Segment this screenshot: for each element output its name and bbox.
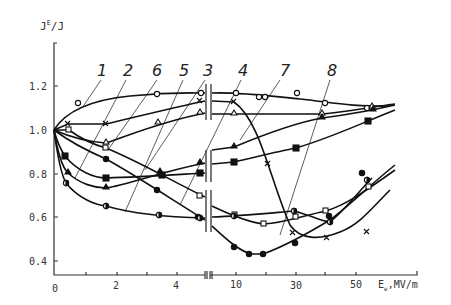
curve-label-1: 1 bbox=[97, 61, 107, 80]
x-tick-labels: 0 2 4 10 30 50 bbox=[52, 279, 362, 294]
svg-text:4: 4 bbox=[173, 280, 179, 291]
curve-5 bbox=[54, 130, 205, 178]
curve-label-4: 4 bbox=[238, 61, 248, 80]
curve-label-5: 5 bbox=[179, 61, 189, 80]
svg-text:2: 2 bbox=[113, 280, 119, 291]
curve-label-2: 2 bbox=[123, 61, 133, 80]
svg-text:0: 0 bbox=[52, 283, 58, 294]
svg-text:0.6: 0.6 bbox=[29, 212, 47, 223]
x-axis-label: Ee,MV/m bbox=[378, 279, 418, 292]
curve-label-6: 6 bbox=[152, 61, 162, 80]
curve-6 bbox=[54, 130, 205, 197]
svg-text:1.2: 1.2 bbox=[29, 81, 47, 92]
curve-labels: 1 2 6 5 3 4 7 8 bbox=[97, 61, 337, 80]
curve-label-7: 7 bbox=[280, 61, 291, 80]
axis-break-marks bbox=[206, 84, 211, 232]
y-axis-label: JE/J bbox=[40, 19, 64, 33]
y-tick-labels: 1.2 1.0 0.8 0.6 0.4 bbox=[29, 81, 47, 267]
curves bbox=[54, 93, 395, 254]
curve-label-3: 3 bbox=[203, 61, 213, 80]
hollow-triangle-markers bbox=[103, 103, 375, 144]
curve-4-right bbox=[212, 105, 395, 150]
svg-text:0.4: 0.4 bbox=[29, 256, 47, 267]
curve-label-8: 8 bbox=[327, 61, 337, 80]
curve-1-right bbox=[212, 93, 390, 106]
svg-text:30: 30 bbox=[290, 280, 302, 291]
svg-text:50: 50 bbox=[350, 279, 362, 290]
curve-3 bbox=[54, 113, 205, 143]
chart: JE/J 1.2 1.0 0.8 0.6 0.4 0 2 4 10 30 50 … bbox=[0, 0, 451, 305]
filled-triangle-markers bbox=[65, 106, 376, 189]
svg-text:10: 10 bbox=[230, 279, 242, 290]
svg-text:1.0: 1.0 bbox=[29, 125, 47, 136]
svg-text:0.8: 0.8 bbox=[29, 169, 47, 180]
